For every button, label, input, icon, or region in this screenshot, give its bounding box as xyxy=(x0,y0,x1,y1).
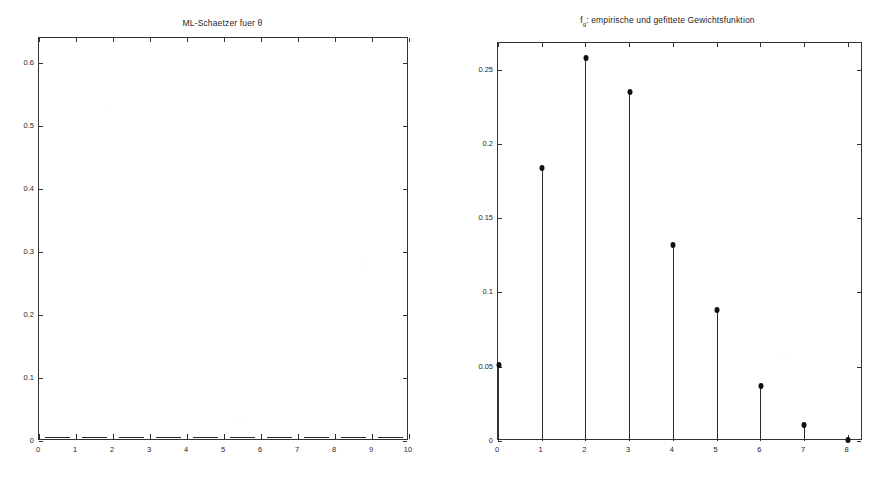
x-axis-tick-label: 5 xyxy=(713,445,717,454)
data-point-marker xyxy=(76,434,77,439)
x-axis-tick-label: 3 xyxy=(147,445,151,454)
data-trace-segment xyxy=(193,437,218,438)
y-axis-tick-label: 0.25 xyxy=(463,64,493,73)
data-trace-segment xyxy=(119,437,144,438)
y-tick-mark-right xyxy=(857,70,861,71)
chart-panel-ml-estimator: ML-Schaetzer fuer θ 01234567891000.10.20… xyxy=(0,0,445,479)
y-tick-mark-right xyxy=(403,252,407,253)
y-axis-tick-label: 0.4 xyxy=(4,184,34,193)
x-axis-tick-label: 2 xyxy=(582,445,586,454)
x-tick-mark-top xyxy=(39,38,40,42)
x-axis-tick-label: 3 xyxy=(626,445,630,454)
y-axis-tick-label: 0.05 xyxy=(463,361,493,370)
x-axis-tick-label: 8 xyxy=(845,445,849,454)
x-axis-tick-label: 10 xyxy=(404,445,412,454)
x-tick-mark-top xyxy=(409,38,410,42)
y-tick-mark xyxy=(39,63,43,64)
data-point-marker xyxy=(715,307,720,313)
data-point-marker xyxy=(335,434,336,439)
data-point-marker xyxy=(187,434,188,439)
y-axis-tick-label: 0.15 xyxy=(463,213,493,222)
x-axis-tick-label: 8 xyxy=(332,445,336,454)
x-tick-mark-top xyxy=(372,38,373,42)
y-axis-tick-label: 0.6 xyxy=(4,58,34,67)
data-trace-segment xyxy=(156,437,181,438)
y-axis-tick-label: 0.5 xyxy=(4,121,34,130)
x-tick-mark-top xyxy=(760,43,761,47)
stem-line xyxy=(585,58,586,441)
y-tick-mark-right xyxy=(857,218,861,219)
x-tick-mark-top xyxy=(261,38,262,42)
y-axis-tick-label: 0.2 xyxy=(463,138,493,147)
x-axis-tick-label: 6 xyxy=(258,445,262,454)
data-trace-segment xyxy=(230,437,255,438)
chart-title-weight-function: fg: empirische und gefittete Gewichtsfun… xyxy=(445,15,890,27)
y-tick-mark-right xyxy=(403,189,407,190)
x-axis-tick-label: 0 xyxy=(36,445,40,454)
data-trace-segment xyxy=(341,437,366,438)
data-trace-segment xyxy=(304,437,329,438)
x-tick-mark-top xyxy=(673,43,674,47)
data-point-marker xyxy=(261,434,262,439)
x-tick-mark-top xyxy=(298,38,299,42)
chart-title-text: ML-Schaetzer fuer xyxy=(183,18,258,28)
y-axis-tick-label: 0.3 xyxy=(4,247,34,256)
x-tick-mark-top xyxy=(717,43,718,47)
stem-line xyxy=(717,310,718,441)
plot-area-ml-estimator xyxy=(38,37,408,440)
data-trace-segment xyxy=(82,437,107,438)
data-point-marker xyxy=(758,383,763,389)
y-tick-mark xyxy=(39,252,43,253)
y-tick-mark-right xyxy=(403,63,407,64)
data-point-marker xyxy=(627,89,632,95)
data-trace-segment xyxy=(378,437,403,438)
stem-line xyxy=(673,245,674,441)
x-axis-tick-label: 9 xyxy=(369,445,373,454)
x-tick-mark-top xyxy=(335,38,336,42)
y-axis-tick-label: 0.1 xyxy=(463,287,493,296)
y-tick-mark-right xyxy=(403,378,407,379)
data-point-marker xyxy=(298,434,299,439)
data-point-marker xyxy=(671,242,676,248)
chart-panel-weight-function: fg: empirische und gefittete Gewichtsfun… xyxy=(445,0,890,479)
data-point-marker xyxy=(409,434,410,439)
plot-area-weight-function xyxy=(497,42,862,440)
x-axis-tick-label: 0 xyxy=(495,445,499,454)
x-tick-mark-top xyxy=(113,38,114,42)
data-trace-segment xyxy=(45,437,70,438)
data-trace-segment xyxy=(267,437,292,438)
x-axis-tick-label: 1 xyxy=(73,445,77,454)
data-point-marker xyxy=(150,434,151,439)
x-tick-mark-top xyxy=(76,38,77,42)
x-axis-tick-label: 5 xyxy=(221,445,225,454)
theta-symbol: θ xyxy=(258,18,263,28)
data-point-marker xyxy=(113,434,114,439)
y-tick-mark-right xyxy=(403,315,407,316)
x-tick-mark-top xyxy=(542,43,543,47)
x-tick-mark-top xyxy=(804,43,805,47)
x-axis-tick-label: 2 xyxy=(110,445,114,454)
y-tick-mark-right xyxy=(857,144,861,145)
y-tick-mark-right xyxy=(857,367,861,368)
data-point-marker xyxy=(802,422,807,428)
x-tick-mark-top xyxy=(498,43,499,47)
chart-title-text: : empirische und gefittete Gewichtsfunkt… xyxy=(586,15,755,25)
y-tick-mark xyxy=(498,441,502,442)
x-tick-mark-top xyxy=(187,38,188,42)
y-tick-mark-right xyxy=(857,441,861,442)
x-tick-mark-top xyxy=(150,38,151,42)
x-axis-tick-label: 4 xyxy=(184,445,188,454)
x-axis-tick-label: 4 xyxy=(670,445,674,454)
x-tick-mark-top xyxy=(629,43,630,47)
stem-line xyxy=(542,168,543,441)
x-tick-mark-top xyxy=(848,43,849,47)
y-tick-mark-right xyxy=(403,441,407,442)
y-tick-mark xyxy=(498,218,502,219)
stem-line xyxy=(498,365,499,441)
y-tick-mark xyxy=(39,315,43,316)
y-axis-tick-label: 0 xyxy=(4,436,34,445)
y-tick-mark xyxy=(498,144,502,145)
stem-line xyxy=(760,386,761,441)
y-tick-mark xyxy=(39,126,43,127)
x-axis-tick-label: 7 xyxy=(295,445,299,454)
